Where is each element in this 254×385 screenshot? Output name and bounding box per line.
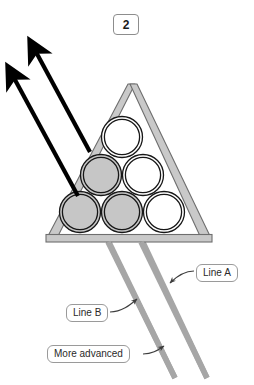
- diagram-canvas: 2 Line A Line B More advanced: [0, 0, 254, 385]
- callout-line-b[interactable]: Line B: [66, 304, 108, 322]
- ball-bottom-center[interactable]: [102, 192, 143, 233]
- ball-top[interactable]: [102, 117, 143, 158]
- leader-line-a: [170, 271, 194, 283]
- ball-bottom-right[interactable]: [144, 192, 185, 233]
- rack-base-rail: [46, 235, 212, 243]
- callout-leaders-group: [110, 271, 194, 354]
- callout-more-advanced[interactable]: More advanced: [47, 345, 130, 363]
- ball-mid-left[interactable]: [81, 155, 122, 196]
- figure-svg: [0, 0, 254, 385]
- guide-line-a-lower[interactable]: [141, 242, 207, 378]
- ball-mid-right[interactable]: [123, 155, 164, 196]
- leader-line-b: [110, 299, 137, 312]
- ball-bottom-left[interactable]: [60, 192, 101, 233]
- callout-line-a[interactable]: Line A: [196, 264, 238, 282]
- motion-arrows-group: [14, 52, 90, 196]
- motion-arrow-2: [14, 78, 78, 196]
- step-number-badge: 2: [113, 14, 139, 35]
